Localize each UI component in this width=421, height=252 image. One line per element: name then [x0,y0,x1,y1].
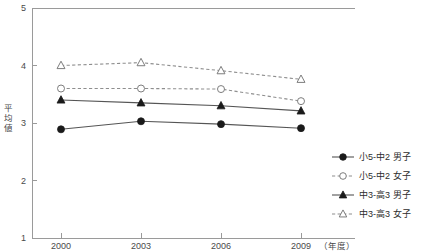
data-series [57,96,305,114]
chart-plot-area: 5 4 3 2 1 平 均 値 2000 2003 2006 2009 （年度） [0,0,421,252]
legend-item[interactable]: 小5-中2 男子 [332,151,411,162]
legend-label: 中3-高3 女子 [359,208,411,219]
legend-item[interactable]: 小5-中2 女子 [332,170,411,181]
series-line [61,121,301,129]
open-circle-marker [218,86,225,93]
y-axis-title-char: 平 [4,103,13,113]
y-axis-title-char: 値 [4,123,13,133]
filled-circle-marker [58,126,65,133]
legend-label: 小5-中2 女子 [359,170,411,181]
legend-label: 小5-中2 男子 [359,151,411,162]
filled-circle-marker [340,154,347,161]
legend-item[interactable]: 中3-高3 女子 [332,208,411,219]
y-axis-title-char: 均 [4,113,13,123]
y-axis-tick-labels: 5 4 3 2 1 [21,3,26,243]
filled-triangle-marker [57,96,65,103]
x-axis-tick-labels: 2000 2003 2006 2009 （年度） [51,241,355,251]
open-circle-marker [58,85,65,92]
y-tick-label: 2 [21,176,26,186]
legend-label: 中3-高3 男子 [359,189,411,200]
line-chart: 5 4 3 2 1 平 均 値 2000 2003 2006 2009 （年度） [0,0,421,252]
open-triangle-marker [339,210,347,217]
x-tick-label: 2003 [131,241,151,251]
open-triangle-marker [137,58,145,65]
y-tick-label: 4 [21,61,26,71]
open-circle-marker [138,85,145,92]
chart-legend: 小5-中2 男子小5-中2 女子中3-高3 男子中3-高3 女子 [332,151,411,219]
filled-circle-marker [218,121,225,128]
x-axis-ticks [61,233,301,238]
x-tick-label: 2006 [211,241,231,251]
x-axis-unit-label: （年度） [319,241,355,251]
data-series [57,58,305,82]
y-axis-ticks [32,8,37,238]
y-tick-label: 3 [21,118,26,128]
y-axis-title: 平 均 値 [4,103,13,133]
series-line [61,63,301,80]
data-series-layer [57,58,305,132]
legend-item[interactable]: 中3-高3 男子 [332,189,411,200]
x-tick-label: 2009 [291,241,311,251]
open-circle-marker [298,98,305,105]
x-tick-label: 2000 [51,241,71,251]
series-line [61,89,301,102]
data-series [58,118,305,133]
y-tick-label: 5 [21,3,26,13]
series-line [61,100,301,111]
filled-circle-marker [298,125,305,132]
filled-circle-marker [138,118,145,125]
y-tick-label: 1 [21,233,26,243]
open-circle-marker [340,173,347,180]
filled-triangle-marker [339,191,347,198]
